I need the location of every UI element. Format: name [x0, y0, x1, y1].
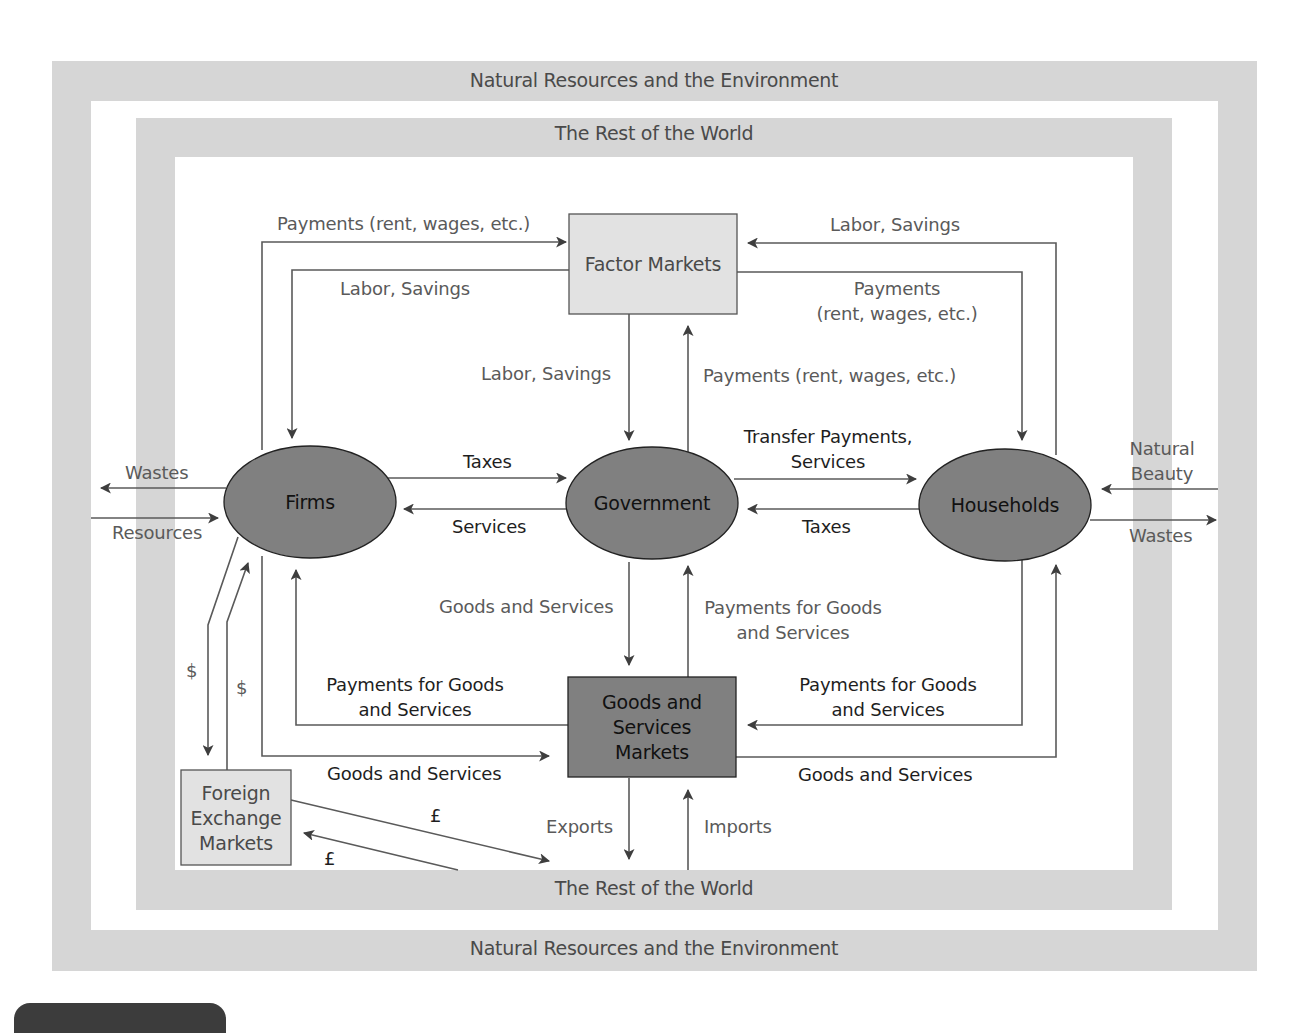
figure-caption-tab	[14, 1003, 226, 1033]
goods-markets-label-3: Markets	[568, 740, 736, 765]
arrow-markets-to-households-goods	[736, 565, 1056, 757]
label-forex-to-firms-dollar: $	[236, 675, 247, 700]
factor-markets-label: Factor Markets	[569, 252, 737, 277]
label-firms-wastes: Wastes	[125, 460, 188, 485]
label-factor-to-households-payments-1: Payments	[797, 276, 997, 301]
label-gov-to-factor-payments: Payments (rent, wages, etc.)	[703, 363, 956, 388]
forex-label-2: Exchange	[181, 806, 291, 831]
label-natural-beauty-1: Natural	[1112, 436, 1212, 461]
label-forex-to-world-pound: £	[430, 803, 441, 828]
arrow-forex-to-firms-dollar	[227, 563, 248, 770]
label-households-to-gov-taxes: Taxes	[802, 514, 851, 539]
label-firms-resources: Resources	[112, 520, 202, 545]
label-gov-to-households-1: Transfer Payments,	[728, 424, 928, 449]
label-factor-to-firms-labor: Labor, Savings	[340, 276, 470, 301]
label-natural-beauty-2: Beauty	[1112, 461, 1212, 486]
label-households-wastes: Wastes	[1129, 523, 1192, 548]
label-markets-to-gov-payments-2: and Services	[683, 620, 903, 645]
label-markets-to-firms-payments-2: and Services	[305, 697, 525, 722]
label-gov-to-firms-services: Services	[452, 514, 526, 539]
label-markets-to-gov-payments-1: Payments for Goods	[683, 595, 903, 620]
forex-label-3: Markets	[181, 831, 291, 856]
label-firms-to-factor-payments: Payments (rent, wages, etc.)	[277, 211, 530, 236]
label-factor-to-households-payments-2: (rent, wages, etc.)	[797, 301, 997, 326]
arrow-firms-to-markets-goods	[262, 556, 549, 756]
label-factor-to-gov-labor: Labor, Savings	[481, 361, 611, 386]
goods-markets-label-2: Services	[568, 715, 736, 740]
label-households-to-factor-labor: Labor, Savings	[830, 212, 960, 237]
government-label: Government	[566, 491, 738, 516]
households-label: Households	[919, 493, 1091, 518]
label-gov-to-households-2: Services	[728, 449, 928, 474]
label-households-to-markets-payments-2: and Services	[778, 697, 998, 722]
arrow-firms-to-factor-payments	[262, 242, 566, 450]
label-gov-to-markets-goods: Goods and Services	[439, 594, 613, 619]
forex-label-1: Foreign	[181, 781, 291, 806]
label-firms-to-forex-dollar: $	[186, 658, 197, 683]
firms-label: Firms	[224, 490, 396, 515]
goods-markets-label-1: Goods and	[568, 690, 736, 715]
label-firms-to-markets-goods: Goods and Services	[327, 761, 501, 786]
label-markets-to-firms-payments-1: Payments for Goods	[305, 672, 525, 697]
label-exports: Exports	[546, 814, 613, 839]
label-markets-to-households-goods: Goods and Services	[798, 762, 972, 787]
label-households-to-markets-payments-1: Payments for Goods	[778, 672, 998, 697]
label-imports: Imports	[704, 814, 772, 839]
arrow-firms-to-forex-dollar	[208, 537, 238, 755]
label-firms-to-gov-taxes: Taxes	[463, 449, 512, 474]
label-world-to-forex-pound: £	[324, 846, 335, 871]
